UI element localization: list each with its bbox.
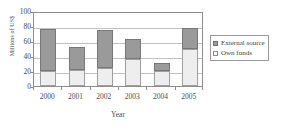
bar-segment-external-source[interactable] [182, 28, 198, 49]
bar-segment-own-funds[interactable] [69, 70, 85, 87]
x-axis-tick-label: 2002 [89, 92, 119, 102]
y-axis-tick-label: 0 [14, 83, 31, 91]
x-axis-tick-mark [146, 87, 147, 90]
y-axis-tick-label: 40 [14, 53, 31, 61]
x-axis-tick-mark [118, 87, 119, 90]
x-axis-tick-label: 2005 [174, 92, 204, 102]
bar-segment-own-funds[interactable] [97, 68, 113, 86]
y-axis-tick-label: 100 [14, 8, 31, 16]
x-axis-title: Year [33, 110, 203, 119]
y-axis-tick-label: 80 [14, 23, 31, 31]
legend-label: External source [221, 39, 265, 48]
chart-legend: External sourceOwn funds [210, 35, 269, 61]
legend-item[interactable]: External source [213, 38, 265, 48]
bar-segment-external-source[interactable] [125, 39, 141, 59]
bar-segment-own-funds[interactable] [182, 49, 198, 87]
plot-area [33, 12, 203, 87]
x-axis-tick-label: 2000 [32, 92, 62, 102]
bar-segment-external-source[interactable] [97, 30, 113, 68]
bar-segment-own-funds[interactable] [40, 71, 56, 86]
x-axis-tick-mark [61, 87, 62, 90]
y-axis-tick-label: 60 [14, 38, 31, 46]
bar-segment-own-funds[interactable] [154, 71, 170, 86]
legend-label: Own funds [221, 49, 252, 58]
x-axis-tick-mark [202, 87, 203, 90]
x-axis-tick-marks [33, 87, 203, 91]
bars-layer [34, 13, 202, 86]
stacked-bar-chart: Millions of US$ 020406080100 20002001200… [0, 0, 287, 132]
y-axis-tick-labels: 020406080100 [14, 8, 31, 88]
legend-swatch-icon [213, 41, 218, 46]
bar-segment-external-source[interactable] [154, 63, 170, 71]
legend-swatch-icon [213, 51, 218, 56]
bar-segment-external-source[interactable] [40, 29, 56, 71]
x-axis-tick-mark [33, 87, 34, 90]
bar-segment-external-source[interactable] [69, 47, 85, 70]
bar-segment-own-funds[interactable] [125, 59, 141, 86]
x-axis-tick-mark [175, 87, 176, 90]
legend-item[interactable]: Own funds [213, 48, 265, 58]
x-axis-tick-label: 2001 [61, 92, 91, 102]
x-axis-tick-labels: 200020012002200320042005 [33, 92, 203, 104]
x-axis-tick-label: 2004 [146, 92, 176, 102]
x-axis-tick-label: 2003 [117, 92, 147, 102]
x-axis-tick-mark [90, 87, 91, 90]
y-axis-tick-label: 20 [14, 68, 31, 76]
